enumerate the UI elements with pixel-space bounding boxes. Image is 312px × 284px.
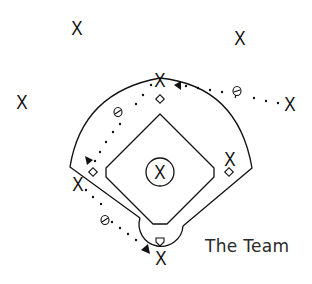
player-marker-far-right: X (284, 94, 295, 114)
player-marker-first-base: X (224, 149, 235, 169)
player-marker-second-base: X (154, 70, 165, 90)
player-marker-pitcher: X (154, 162, 165, 182)
throw-paths (85, 84, 279, 241)
arrow-to-second-icon (174, 81, 181, 90)
player-marker-right-outfield: X (234, 28, 245, 48)
player-marker-left-outfield: X (71, 18, 82, 38)
third-base-icon (89, 168, 97, 176)
arrow-to-third-icon (85, 156, 93, 165)
baseball-icon (233, 87, 241, 99)
baseball-icon (101, 216, 109, 225)
baseball-icon (114, 108, 122, 117)
arrow-to-home-icon (141, 244, 150, 254)
home-plate-icon (156, 238, 164, 246)
diagram-title: The Team (205, 236, 289, 256)
second-base-icon (156, 95, 164, 103)
player-marker-catcher: X (155, 248, 166, 268)
player-marker-third-base: X (72, 174, 83, 194)
player-marker-far-left: X (16, 92, 27, 112)
